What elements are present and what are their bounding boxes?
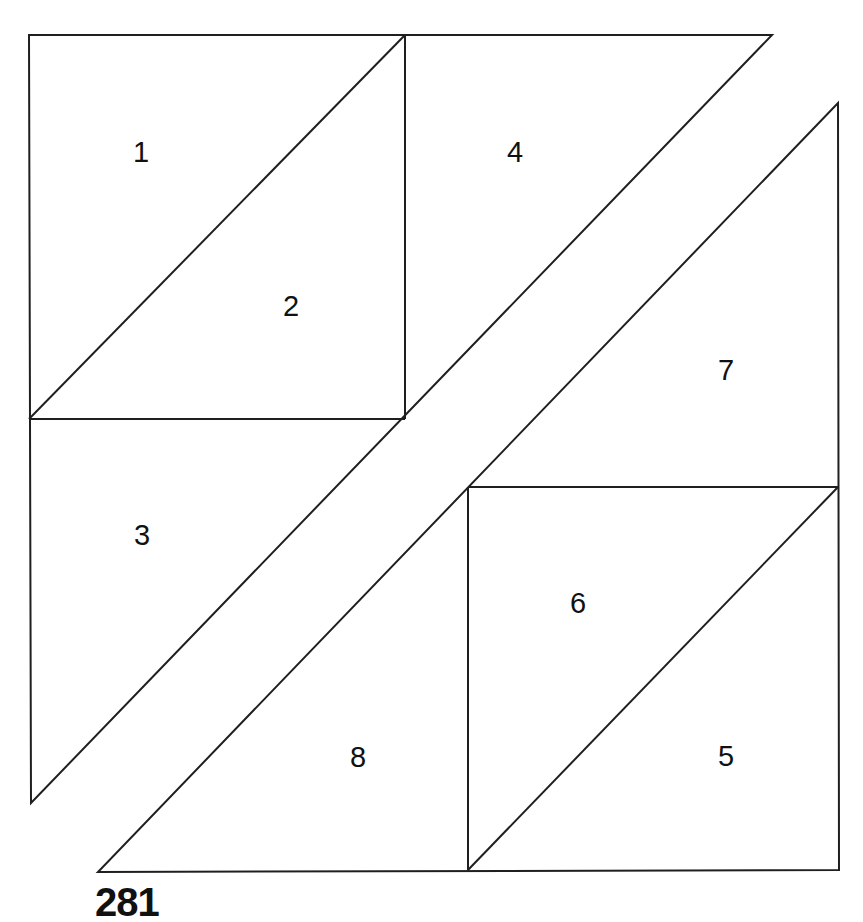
piece-label-6: 6 [570, 587, 586, 619]
dissection-diagram: 12345678 [0, 0, 863, 922]
piece-label-7: 7 [718, 354, 734, 386]
square-a-diagonal [29, 35, 405, 419]
piece-label-2: 2 [283, 290, 299, 322]
piece-label-8: 8 [350, 741, 366, 773]
diagram-page: 12345678 281 [0, 0, 863, 922]
piece-label-5: 5 [718, 740, 734, 772]
piece-label-1: 1 [133, 136, 149, 168]
piece-label-3: 3 [134, 519, 150, 551]
page-number: 281 [95, 882, 159, 922]
square-b-diagonal [468, 487, 838, 870]
piece-label-4: 4 [507, 136, 523, 168]
